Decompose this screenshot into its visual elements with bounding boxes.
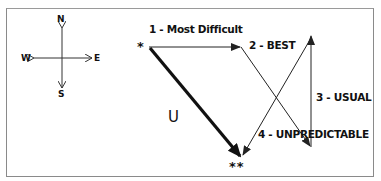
route-3-label: 3 - USUAL bbox=[316, 92, 371, 103]
start-marker: * bbox=[137, 40, 144, 53]
compass-south-label: S bbox=[58, 90, 64, 99]
route-2-label: 2 - BEST bbox=[249, 40, 295, 51]
end-marker: ** bbox=[229, 160, 245, 173]
direct-route-arrow bbox=[150, 48, 240, 156]
compass-north-label: N bbox=[57, 15, 65, 24]
direct-route-label: U bbox=[168, 110, 179, 125]
compass-west-label: W bbox=[21, 54, 31, 63]
compass-east-label: E bbox=[94, 54, 100, 63]
route-1-label: 1 - Most Difficult bbox=[149, 24, 243, 35]
route-4-label: 4 - UNPREDICTABLE bbox=[258, 129, 369, 140]
compass-icon bbox=[34, 28, 92, 88]
